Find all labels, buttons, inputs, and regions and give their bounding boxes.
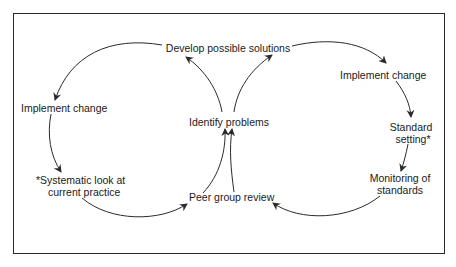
node-implement-change-left: Implement change (21, 102, 107, 114)
node-implement-change-right: Implement change (340, 69, 426, 81)
arrow-develop-to-implement-right (292, 42, 386, 63)
node-standard-setting-line2: setting* (387, 133, 439, 145)
arrow-implement-to-standard (396, 81, 411, 117)
arrow-identify-to-develop-left (186, 57, 222, 112)
node-monitoring-line2: standards (364, 184, 436, 196)
arrow-systematic-to-peer (82, 198, 187, 217)
node-identify-problems: Identify problems (181, 116, 277, 128)
arrow-peer-to-identify-right (231, 129, 234, 192)
node-systematic-look-line2: current practice (48, 186, 120, 198)
node-standard-setting-line1: Standard (385, 121, 437, 133)
arrow-standard-to-monitoring (401, 144, 408, 171)
node-peer-group-review: Peer group review (189, 191, 274, 203)
node-systematic-look-line1: *Systematic look at (36, 174, 125, 186)
arrow-peer-to-identify-left (203, 129, 225, 193)
node-develop-possible-solutions: Develop possible solutions (160, 42, 296, 54)
arrow-identify-to-develop-right (234, 55, 272, 112)
arrow-monitoring-to-peer (273, 196, 380, 216)
arrow-implement-to-systematic (49, 114, 61, 172)
node-monitoring-line1: Monitoring of (364, 172, 436, 184)
arrow-develop-to-implement-left (55, 43, 162, 100)
